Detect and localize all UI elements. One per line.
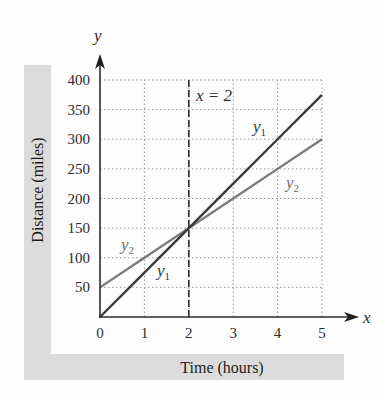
y-axis-var: y (92, 26, 102, 45)
chart: x = 2 y x 50100150200250300350400 012345… (0, 0, 385, 396)
label-y2: y2 (284, 173, 299, 194)
y-tick: 300 (68, 131, 91, 147)
gridlines (100, 80, 322, 317)
y-axis-title: Distance (miles) (29, 137, 47, 242)
label-y2-left: y2 (119, 235, 134, 256)
series-y2 (100, 139, 322, 287)
x-axis-title: Time (hours) (180, 359, 263, 377)
y-tick: 50 (75, 279, 90, 295)
y-tick: 250 (68, 161, 91, 177)
x-tick-labels: 012345 (96, 325, 326, 341)
series-lines (100, 95, 322, 317)
label-y1-left: y1 (155, 261, 170, 282)
x-tick: 0 (96, 325, 104, 341)
vline-label: x = 2 (195, 86, 233, 105)
series-y1 (100, 95, 322, 317)
y-tick: 200 (68, 191, 91, 207)
y-tick: 350 (68, 102, 91, 118)
y-tick: 150 (68, 220, 91, 236)
label-y1: y1 (251, 117, 266, 138)
x-tick: 4 (274, 325, 282, 341)
x-tick: 2 (185, 325, 193, 341)
y-tick-labels: 50100150200250300350400 (68, 72, 91, 295)
x-tick: 3 (229, 325, 237, 341)
y-tick: 400 (68, 72, 91, 88)
y-tick: 100 (68, 250, 91, 266)
x-tick: 5 (318, 325, 326, 341)
x-axis-var: x (362, 308, 371, 327)
x-tick: 1 (141, 325, 149, 341)
